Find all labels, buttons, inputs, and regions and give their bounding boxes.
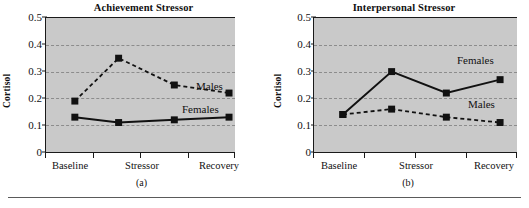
- x-tick-mark: [466, 152, 467, 158]
- x-tick-mark: [313, 152, 314, 158]
- x-tick-mark: [45, 152, 46, 158]
- y-tick-label: 0.1: [16, 119, 42, 131]
- data-point-marker: [226, 90, 233, 97]
- panel-caption-a: (a): [0, 177, 265, 188]
- x-tick-label-baseline: Baseline: [321, 160, 357, 171]
- footer-rule: [8, 197, 521, 198]
- data-point-marker: [388, 68, 395, 75]
- y-axis-ticks-a: 0.5 0.4 0.3 0.2 0.1 0: [12, 17, 42, 152]
- x-tick-mark: [188, 152, 189, 158]
- data-point-marker: [443, 114, 450, 121]
- x-tick-mark: [516, 152, 517, 158]
- data-point-marker: [339, 111, 346, 118]
- y-tick-label: 0.5: [16, 11, 42, 23]
- series-annotation-males: Males: [468, 98, 495, 110]
- data-point-marker: [115, 119, 122, 126]
- data-point-marker: [71, 114, 78, 121]
- y-tick-label: 0.3: [285, 65, 311, 77]
- data-point-marker: [171, 116, 178, 123]
- y-tick-label: 0.1: [285, 119, 311, 131]
- y-tick-label: 0.2: [16, 92, 42, 104]
- series-annotation-females: Females: [457, 54, 494, 66]
- y-tick-label: 0.2: [285, 92, 311, 104]
- chart-panel-a: Achievement Stressor Cortisol 0.5 0.4 0.…: [0, 0, 265, 200]
- series-line-males: [343, 109, 500, 122]
- x-tick-label-stressor: Stressor: [125, 160, 159, 171]
- plot-area-b: [313, 17, 517, 152]
- y-tick-label: 0.4: [16, 38, 42, 50]
- series-annotation-females: Females: [182, 103, 219, 115]
- panel-caption-b: (b): [265, 177, 529, 188]
- series-females-a: [71, 114, 232, 126]
- data-point-marker: [71, 98, 78, 105]
- series-line-females: [75, 117, 229, 122]
- x-tick-label-recovery: Recovery: [474, 160, 514, 171]
- y-tick-label: 0.4: [285, 38, 311, 50]
- figure-two-panel-line-charts: Achievement Stressor Cortisol 0.5 0.4 0.…: [0, 0, 529, 208]
- series-females-b: [339, 68, 503, 118]
- x-tick-mark: [234, 152, 235, 158]
- y-tick-label: 0: [285, 146, 311, 158]
- chart-panel-b: Interpersonal Stressor Cortisol 0.5 0.4 …: [265, 0, 529, 200]
- x-tick-label-recovery: Recovery: [199, 160, 239, 171]
- x-tick-mark: [140, 152, 141, 158]
- y-tick-label: 0.5: [285, 11, 311, 23]
- data-point-marker: [497, 76, 504, 83]
- x-tick-mark: [93, 152, 94, 158]
- x-tick-label-stressor: Stressor: [399, 160, 433, 171]
- data-point-marker: [497, 119, 504, 126]
- data-point-marker: [388, 106, 395, 113]
- x-tick-label-baseline: Baseline: [52, 160, 88, 171]
- y-axis-ticks-b: 0.5 0.4 0.3 0.2 0.1 0: [281, 17, 311, 152]
- data-point-marker: [443, 90, 450, 97]
- series-annotation-males: Males: [196, 80, 223, 92]
- y-tick-label: 0: [16, 146, 42, 158]
- data-point-marker: [171, 82, 178, 89]
- series-markers-females: [339, 68, 503, 118]
- x-tick-mark: [364, 152, 365, 158]
- data-point-marker: [226, 114, 233, 121]
- series-canvas-b: [314, 18, 517, 152]
- data-point-marker: [115, 55, 122, 62]
- x-tick-mark: [415, 152, 416, 158]
- y-tick-label: 0.3: [16, 65, 42, 77]
